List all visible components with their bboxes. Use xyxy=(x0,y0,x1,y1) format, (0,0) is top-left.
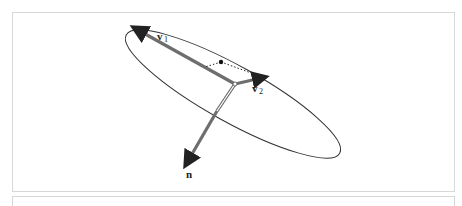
v2-label: v xyxy=(252,82,258,94)
n-vector xyxy=(188,111,217,161)
projection-to-v1 xyxy=(205,62,221,67)
origin-point xyxy=(233,82,237,86)
n-vector-hidden-inner xyxy=(217,84,235,111)
v1-label: v xyxy=(157,30,163,42)
v2-subscript: 2 xyxy=(259,87,263,96)
ellipse-diagram: v 1 v 2 n xyxy=(0,0,462,206)
v1-vector xyxy=(138,30,235,84)
n-label: n xyxy=(186,168,192,180)
v1-subscript: 1 xyxy=(164,35,168,44)
sample-point xyxy=(219,60,223,64)
